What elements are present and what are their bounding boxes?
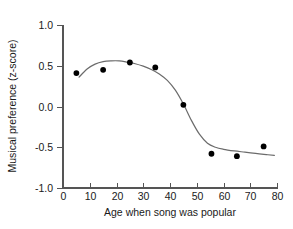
- x-tick-group: [64, 183, 278, 188]
- y-tick-label: -1.0: [35, 182, 53, 194]
- x-tick-label: 10: [85, 190, 97, 202]
- x-axis-title: Age when song was popular: [104, 206, 236, 218]
- y-axis: 1.00.50.0-0.5-1.0: [35, 19, 63, 194]
- data-point: [127, 60, 133, 66]
- x-tick-label: 40: [165, 190, 177, 202]
- chart-figure: 1.00.50.0-0.5-1.0 01020304050607080 Age …: [0, 0, 293, 229]
- y-tick-label: 0.5: [38, 60, 53, 72]
- x-tick-label-group: 01020304050607080: [61, 190, 284, 202]
- x-axis: 01020304050607080: [61, 183, 284, 202]
- y-tick-label-group: 1.00.50.0-0.5-1.0: [35, 19, 53, 194]
- x-tick-label: 60: [219, 190, 231, 202]
- fitted-trend-line: [79, 61, 274, 156]
- data-point: [73, 70, 79, 76]
- y-tick-group: [57, 26, 63, 189]
- x-tick-label: 70: [245, 190, 257, 202]
- x-tick-label: 30: [138, 190, 150, 202]
- y-tick-label: -0.5: [35, 141, 53, 153]
- data-point: [152, 64, 158, 70]
- data-point: [100, 67, 106, 73]
- x-tick-label: 50: [192, 190, 204, 202]
- y-tick-label: 1.0: [38, 19, 53, 31]
- x-tick-label: 80: [272, 190, 284, 202]
- data-point: [261, 144, 267, 150]
- x-tick-label: 0: [61, 190, 67, 202]
- data-point-group: [73, 60, 266, 160]
- y-tick-label: 0.0: [38, 101, 53, 113]
- scatter-plot: 1.00.50.0-0.5-1.0 01020304050607080 Age …: [0, 0, 293, 229]
- data-point: [209, 151, 215, 157]
- data-point: [180, 102, 186, 108]
- x-tick-label: 20: [112, 190, 124, 202]
- data-point: [234, 153, 240, 159]
- y-axis-title: Musical preference (z-score): [6, 39, 18, 172]
